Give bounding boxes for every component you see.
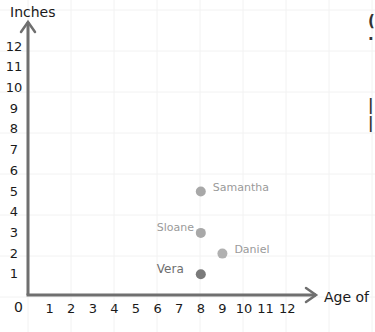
x-axis-label: Age of	[324, 290, 369, 304]
axes	[21, 22, 316, 302]
data-point	[196, 187, 206, 197]
x-tick-label: 11	[256, 302, 276, 315]
x-tick-label: 2	[61, 302, 81, 315]
plot-area	[0, 0, 375, 332]
point-label: Daniel	[234, 244, 269, 255]
y-tick-label: 7	[4, 143, 24, 156]
y-tick-label: 2	[4, 247, 24, 260]
point-label: Vera	[157, 263, 184, 275]
y-tick-label: 10	[4, 81, 24, 94]
x-tick-label: 7	[169, 302, 189, 315]
clipped-text-fragment: |	[368, 96, 373, 114]
data-points	[196, 187, 228, 280]
origin-label: 0	[14, 300, 23, 314]
x-tick-label: 8	[191, 302, 211, 315]
x-tick-label: 4	[104, 302, 124, 315]
y-tick-label: 5	[4, 185, 24, 198]
scatter-chart: Inches Age of 0 123456789101112 12345678…	[0, 0, 375, 332]
x-tick-label: 3	[83, 302, 103, 315]
y-tick-label: 1	[4, 267, 24, 280]
x-tick-label: 10	[234, 302, 254, 315]
clipped-text-fragment: ·	[368, 30, 374, 48]
clipped-text-fragment: (	[368, 12, 375, 30]
y-tick-label: 9	[4, 102, 24, 115]
point-label: Samantha	[213, 182, 269, 193]
point-label: Sloane	[157, 222, 194, 233]
y-axis-label: Inches	[10, 5, 55, 19]
data-point	[196, 228, 206, 238]
x-tick-label: 12	[277, 302, 297, 315]
y-tick-label: 6	[4, 164, 24, 177]
x-tick-label: 5	[126, 302, 146, 315]
y-tick-label: 12	[4, 40, 24, 53]
y-tick-label: 4	[4, 205, 24, 218]
clipped-text-fragment: |	[368, 114, 373, 132]
x-tick-label: 9	[212, 302, 232, 315]
y-tick-label: 11	[4, 60, 24, 73]
x-tick-label: 1	[40, 302, 60, 315]
data-point	[217, 249, 227, 259]
x-tick-label: 6	[148, 302, 168, 315]
y-tick-label: 8	[4, 122, 24, 135]
data-point	[196, 269, 206, 279]
y-tick-label: 3	[4, 226, 24, 239]
grid-lines	[0, 0, 375, 332]
